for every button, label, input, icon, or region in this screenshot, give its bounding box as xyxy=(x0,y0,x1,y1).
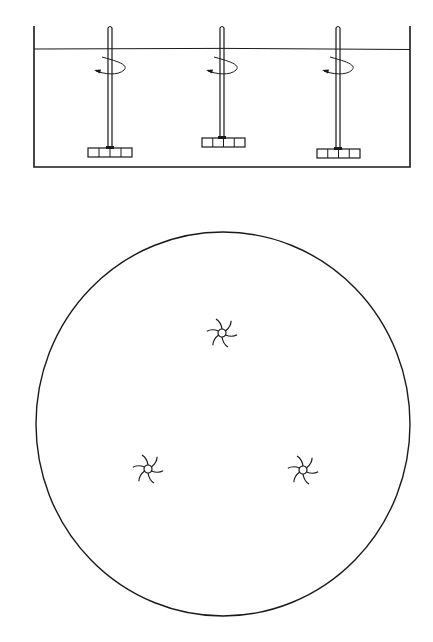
curved-blade xyxy=(151,466,163,476)
curved-blade xyxy=(148,473,154,483)
curved-blade xyxy=(207,326,219,336)
curved-blade xyxy=(288,463,300,473)
mixing-tank-diagram xyxy=(0,0,433,642)
tank-walls xyxy=(34,26,410,167)
arrowhead-icon xyxy=(206,70,213,74)
side-impeller-left xyxy=(88,27,132,158)
side-impeller-right xyxy=(317,27,360,159)
curved-blade xyxy=(216,319,222,329)
curved-blade xyxy=(222,337,228,347)
plan-view xyxy=(36,232,410,616)
plan-impeller-top xyxy=(207,319,237,347)
shaft xyxy=(220,27,224,139)
arrowhead-icon xyxy=(322,70,329,74)
impeller-hub xyxy=(218,329,226,337)
liquid-surface xyxy=(34,48,410,49)
curved-blade xyxy=(297,456,303,466)
plan-impeller-bottom-left xyxy=(133,455,163,483)
curved-blade xyxy=(225,330,237,340)
shaft xyxy=(336,27,340,150)
shaft xyxy=(108,27,112,149)
curved-blade xyxy=(142,455,148,465)
impeller-hub xyxy=(299,466,307,474)
curved-blade xyxy=(133,462,145,472)
arrowhead-icon xyxy=(94,70,101,74)
curved-blade xyxy=(303,474,309,484)
plan-impeller-bottom-right xyxy=(288,456,318,484)
vessel-outline xyxy=(36,232,410,616)
curved-blade xyxy=(306,467,318,477)
side-view xyxy=(34,26,410,167)
side-impeller-center xyxy=(202,27,245,148)
impeller-hub xyxy=(144,465,152,473)
